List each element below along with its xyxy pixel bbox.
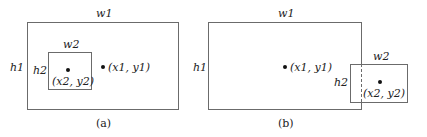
point2-dot-a [66,68,70,72]
w2-label-b: w2 [373,51,389,62]
point1-label-b: (x1, y1) [290,62,332,73]
point2-dot-b [378,80,382,84]
outer-right-edge-top-b [361,22,362,64]
point2-label-a: (x2, y2) [52,76,94,87]
point2-label-b: (x2, y2) [363,88,405,99]
w2-label-a: w2 [63,39,79,50]
caption-a: (a) [96,118,111,129]
h2-label-b: h2 [334,77,348,88]
outer-right-edge-bottom-b [361,102,362,110]
caption-b: (b) [278,118,294,129]
point1-dot-b [283,65,287,69]
h1-label-b: h1 [193,62,207,73]
h2-label-a: h2 [33,65,47,76]
point1-label-a: (x1, y1) [108,62,150,73]
point1-dot-a [101,65,105,69]
w1-label-b: w1 [278,8,294,19]
h1-label-a: h1 [10,62,24,73]
w1-label-a: w1 [96,8,112,19]
